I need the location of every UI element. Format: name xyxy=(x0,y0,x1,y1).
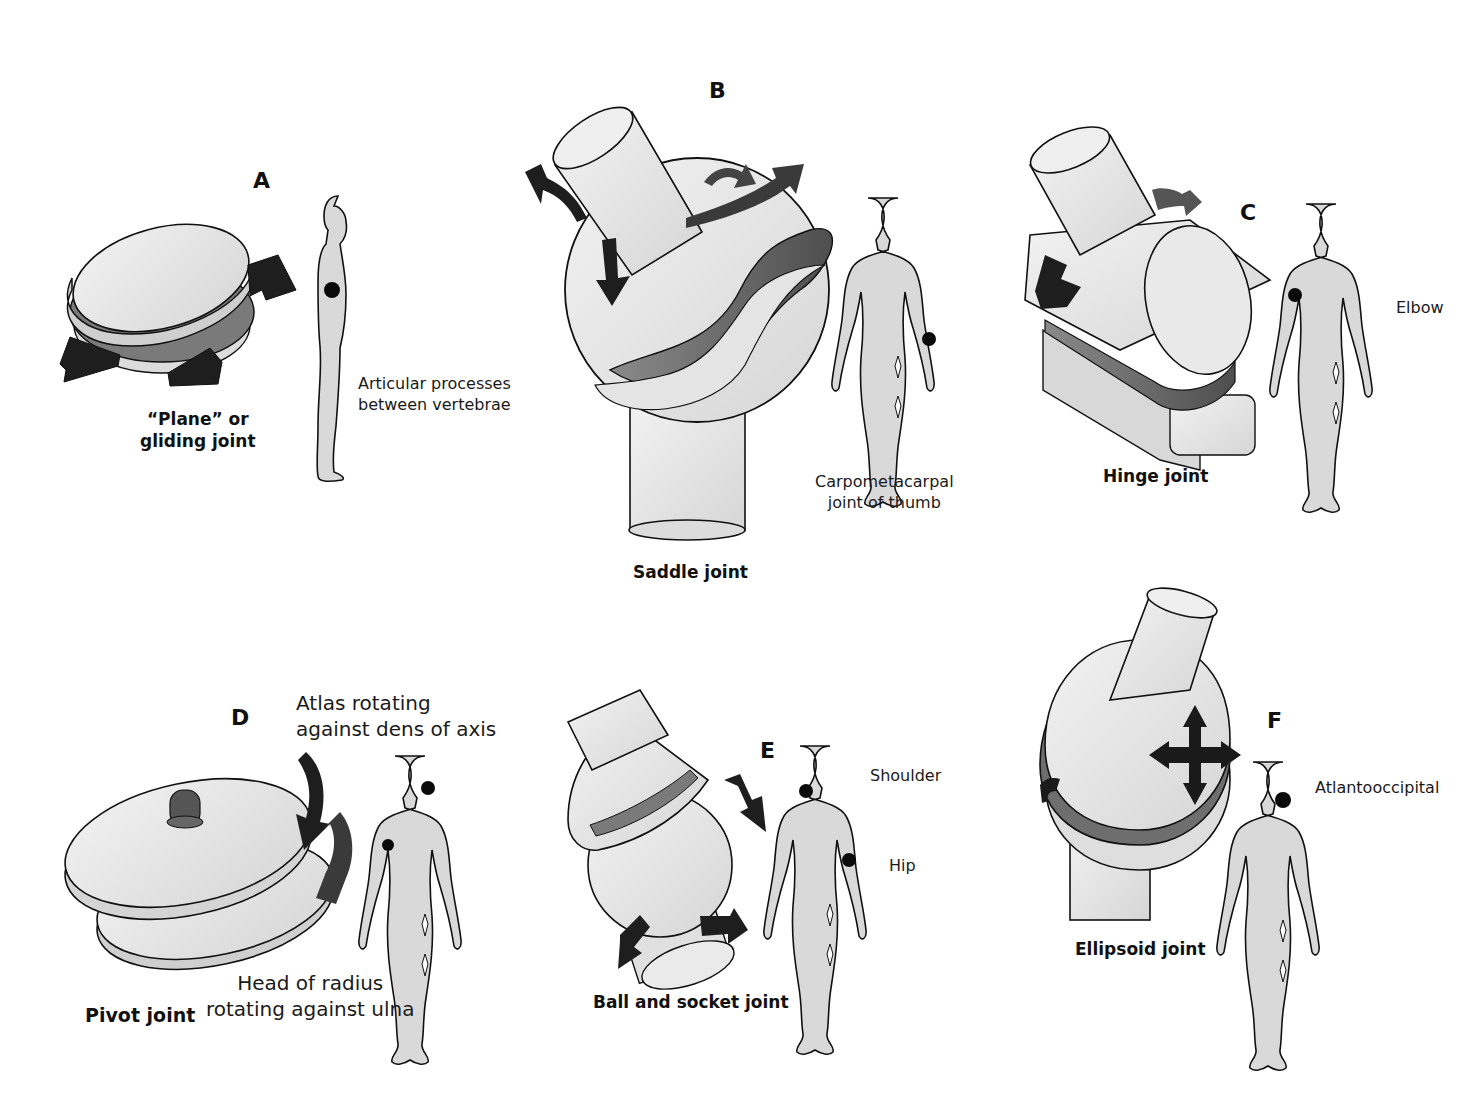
panel-b-illustration xyxy=(525,96,832,540)
marker-atlas xyxy=(421,781,435,795)
marker-radius xyxy=(382,839,394,851)
marker-thumb xyxy=(922,332,936,346)
marker-hip xyxy=(842,853,856,867)
joint-title-ellipsoid: Ellipsoid joint xyxy=(1075,938,1206,960)
example-label-radius: Head of radius rotating against ulna xyxy=(206,970,414,1022)
panel-f-body xyxy=(1217,762,1319,1070)
panel-b-body xyxy=(832,198,936,506)
example-label-atlantooccipital: Atlantooccipital xyxy=(1315,777,1439,798)
marker-shoulder xyxy=(799,784,813,798)
joint-title-pivot: Pivot joint xyxy=(85,1004,195,1026)
panel-c-body xyxy=(1270,204,1372,512)
panel-letter-c: C xyxy=(1240,200,1256,225)
example-label-hip: Hip xyxy=(889,855,916,876)
marker-vertebrae xyxy=(324,282,340,298)
joint-title-saddle: Saddle joint xyxy=(633,561,748,583)
example-label-atlas: Atlas rotating against dens of axis xyxy=(296,690,496,742)
panel-letter-a: A xyxy=(253,168,270,193)
panel-letter-d: D xyxy=(231,705,249,730)
example-label-vertebrae: Articular processes between vertebrae xyxy=(358,373,511,415)
panel-d-illustration xyxy=(53,752,352,989)
panel-a-illustration xyxy=(60,206,296,386)
example-label-thumb: Carpometacarpal joint of thumb xyxy=(815,471,954,513)
panel-letter-b: B xyxy=(709,78,726,103)
example-label-elbow: Elbow xyxy=(1396,297,1444,318)
panel-e-illustration xyxy=(568,690,766,999)
joint-title-ball-socket: Ball and socket joint xyxy=(593,991,789,1013)
panel-letter-e: E xyxy=(760,738,775,763)
panel-f-illustration xyxy=(1040,582,1241,920)
panel-a-body-side xyxy=(317,196,346,481)
example-label-shoulder: Shoulder xyxy=(870,765,941,786)
marker-elbow xyxy=(1288,288,1302,302)
joint-title-plane: “Plane” or gliding joint xyxy=(140,408,256,452)
marker-atlantooccipital xyxy=(1275,792,1291,808)
joint-diagram-canvas xyxy=(0,0,1480,1094)
panel-c-illustration xyxy=(1024,118,1270,470)
joint-title-hinge: Hinge joint xyxy=(1103,465,1208,487)
panel-letter-f: F xyxy=(1267,708,1282,733)
